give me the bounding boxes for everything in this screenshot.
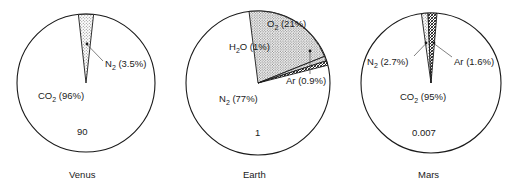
earth-surface-pressure: 1 bbox=[255, 127, 260, 138]
mars-surface-pressure: 0.007 bbox=[412, 127, 436, 138]
mars-label-n2: N2 (2.7%) bbox=[367, 56, 408, 69]
venus-n2-anchor-dot bbox=[86, 43, 89, 46]
atmospheric-composition-figure: N2 (3.5%) CO2 (96%) 90 Venus O2 (21%) H2… bbox=[0, 0, 511, 194]
earth-label-n2: N2 (77%) bbox=[219, 93, 258, 106]
venus-label-n2: N2 (3.5%) bbox=[105, 58, 146, 71]
earth-label-ar: Ar (0.9%) bbox=[286, 75, 326, 86]
panel-venus: N2 (3.5%) CO2 (96%) 90 Venus bbox=[17, 14, 155, 180]
venus-label-co2: CO2 (96%) bbox=[38, 90, 84, 103]
venus-planet-name: Venus bbox=[69, 169, 96, 180]
mars-label-co2: CO2 (95%) bbox=[400, 91, 446, 104]
mars-label-ar: Ar (1.6%) bbox=[454, 56, 494, 67]
pie-charts-svg: N2 (3.5%) CO2 (96%) 90 Venus O2 (21%) H2… bbox=[0, 0, 511, 194]
earth-label-h2o: H2O (1%) bbox=[229, 41, 270, 54]
panel-mars: N2 (2.7%) Ar (1.6%) CO2 (95%) 0.007 Mars bbox=[361, 13, 501, 180]
earth-planet-name: Earth bbox=[243, 169, 266, 180]
mars-planet-name: Mars bbox=[418, 169, 439, 180]
panel-earth: O2 (21%) H2O (1%) Ar (0.9%) N2 (77%) 1 E… bbox=[186, 11, 330, 180]
mars-n2-anchor-dot bbox=[425, 42, 428, 45]
venus-surface-pressure: 90 bbox=[77, 126, 88, 137]
earth-label-o2: O2 (21%) bbox=[267, 18, 306, 31]
earth-ar-anchor-dot bbox=[309, 50, 312, 53]
